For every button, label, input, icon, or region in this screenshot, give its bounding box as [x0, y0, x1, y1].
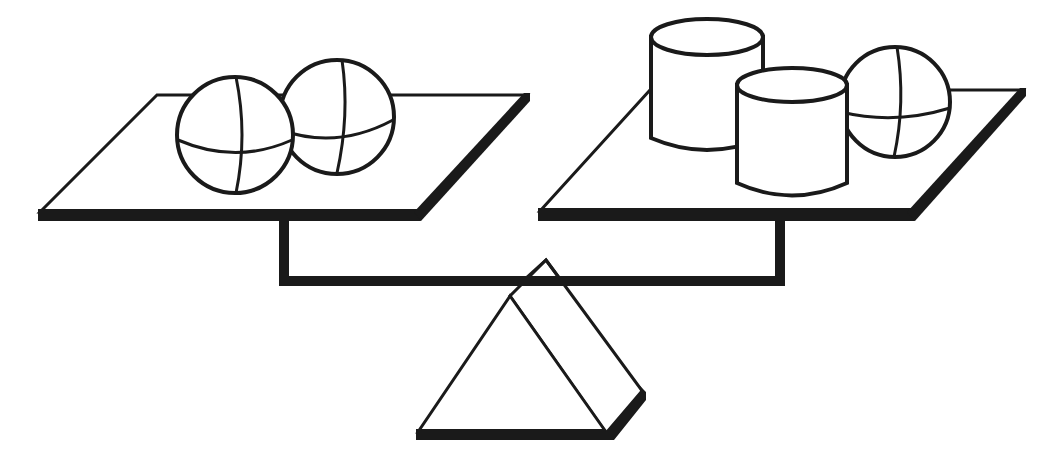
- right-tray: [538, 19, 1026, 221]
- cylinder-icon: [737, 68, 847, 196]
- left-tray: [38, 60, 530, 221]
- balance-scale-diagram: Balance scale comparison A balance beam …: [0, 0, 1059, 471]
- sphere-icon: [840, 47, 950, 157]
- fulcrum-prism: [416, 260, 646, 440]
- sphere-icon: [177, 77, 293, 193]
- sphere-icon: [280, 60, 394, 174]
